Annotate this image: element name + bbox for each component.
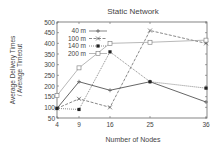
- open-square-marker-icon: [148, 40, 152, 44]
- plus-marker-icon: [96, 29, 100, 33]
- y-tick-label: 100: [44, 104, 55, 111]
- y-tick-label: 250: [44, 72, 55, 79]
- plus-marker-icon: [108, 88, 112, 92]
- y-axis-label: Average Delivery Times/ Average Timeout: [9, 35, 24, 104]
- y-axis-label-line: / Average Timeout: [16, 44, 24, 96]
- cross-marker-icon: [108, 105, 112, 109]
- series-line: [57, 82, 206, 109]
- filled-square-marker-icon: [108, 50, 111, 53]
- open-square-marker-icon: [204, 38, 208, 42]
- chart-title: Static Network: [107, 7, 160, 16]
- line-chart: Static Network50100150200250300350400450…: [0, 0, 213, 149]
- legend-label: 140 m: [68, 42, 86, 49]
- x-tick-label: 16: [106, 121, 114, 128]
- y-tick-label: 150: [44, 93, 55, 100]
- series-140m: [55, 50, 207, 111]
- cross-marker-icon: [77, 97, 81, 101]
- filled-square-marker-icon: [204, 87, 207, 90]
- legend-label: 200 m: [68, 50, 86, 57]
- y-tick-label: 500: [44, 19, 55, 26]
- legend-label: 100 m: [68, 35, 86, 42]
- y-tick-label: 300: [44, 61, 55, 68]
- x-tick-label: 25: [146, 121, 154, 128]
- x-axis-label: Number of Nodes: [106, 136, 161, 143]
- y-tick-label: 350: [44, 51, 55, 58]
- x-tick-label: 9: [77, 121, 81, 128]
- x-tick-label: 36: [202, 121, 210, 128]
- filled-square-marker-icon: [148, 80, 151, 83]
- legend-label: 40 m: [72, 27, 86, 34]
- open-square-marker-icon: [108, 41, 112, 45]
- y-tick-label: 200: [44, 83, 55, 90]
- y-tick-label: 400: [44, 40, 55, 47]
- filled-square-marker-icon: [96, 44, 99, 47]
- open-square-marker-icon: [55, 94, 59, 98]
- open-square-marker-icon: [77, 66, 81, 70]
- legend: 40 m100 m140 m200 m: [68, 27, 107, 57]
- y-tick-label: 450: [44, 29, 55, 36]
- filled-square-marker-icon: [55, 107, 58, 110]
- filled-square-marker-icon: [77, 108, 80, 111]
- open-square-marker-icon: [96, 52, 100, 56]
- x-tick-label: 4: [55, 121, 59, 128]
- series-40m: [55, 80, 208, 111]
